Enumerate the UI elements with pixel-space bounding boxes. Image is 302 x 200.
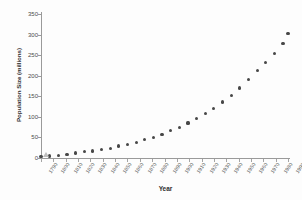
x-tick-mark [78,159,79,162]
y-tick-mark [38,137,42,138]
y-tick-mark [38,96,42,97]
x-tick-mark [127,159,128,162]
x-tick-mark [263,159,264,162]
x-tick-label: 1970 [270,162,281,175]
x-tick-label: 1940 [233,162,244,175]
y-tick-mark [38,35,42,36]
x-tick-mark [53,159,54,162]
population-scatter-chart: Population Size (millions) 0501001502002… [0,0,302,200]
x-tick-label: 1920 [208,162,219,175]
x-tick-mark [90,159,91,162]
x-tick-mark [165,159,166,162]
x-tick-mark [115,159,116,162]
x-tick-mark [189,159,190,162]
x-tick-label: 1990 [295,162,302,175]
x-tick-mark [239,159,240,162]
x-tick-label: 1950 [246,162,257,175]
x-tick-label: 1890 [171,162,182,175]
x-tick-label: 1800 [60,162,71,175]
y-tick-mark [38,117,42,118]
y-tick-mark [38,76,42,77]
x-tick-label: 1880 [159,162,170,175]
x-tick-label: 1840 [110,162,121,175]
x-tick-label: 1790 [48,162,59,175]
x-axis-title: Year [41,185,290,192]
x-tick-label: 1900 [184,162,195,175]
x-tick-mark [276,159,277,162]
y-tick-mark [38,14,42,15]
x-tick-mark [66,159,67,162]
x-tick-mark [140,159,141,162]
x-tick-mark [177,159,178,162]
x-tick-label: 1930 [221,162,232,175]
x-tick-label: 1820 [85,162,96,175]
x-axis-tick-labels: 1790180018101820183018401850186018701880… [0,0,302,200]
x-tick-mark [288,159,289,162]
x-tick-mark [214,159,215,162]
x-tick-label: 1980 [283,162,294,175]
x-tick-label: 1910 [196,162,207,175]
x-tick-label: 1870 [147,162,158,175]
x-tick-label: 1860 [134,162,145,175]
x-tick-label: 1960 [258,162,269,175]
x-tick-label: 1850 [122,162,133,175]
x-tick-mark [41,159,42,162]
x-tick-mark [202,159,203,162]
x-tick-label: 1810 [73,162,84,175]
x-tick-mark [226,159,227,162]
x-tick-mark [103,159,104,162]
x-tick-mark [251,159,252,162]
x-tick-mark [152,159,153,162]
y-tick-mark [38,55,42,56]
x-tick-label: 1830 [97,162,108,175]
